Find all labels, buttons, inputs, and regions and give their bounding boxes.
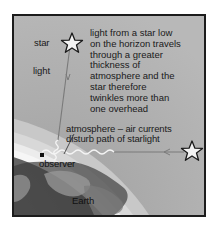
explanation-line: on the horizon travels xyxy=(90,39,181,50)
label-atmosphere-line2: disturb path of starlight xyxy=(66,134,160,145)
label-earth: Earth xyxy=(72,196,94,207)
observer-marker-icon xyxy=(40,153,44,157)
explanation-text: light from a star low on the horizon tra… xyxy=(90,28,181,114)
diagram-frame: star light light from a star low on the … xyxy=(12,14,206,217)
label-light: light xyxy=(33,66,50,77)
label-star: star xyxy=(34,38,49,49)
explanation-line: twinkles more than xyxy=(90,93,181,104)
explanation-line: one overhead xyxy=(90,104,181,115)
label-observer: observer xyxy=(39,159,75,170)
